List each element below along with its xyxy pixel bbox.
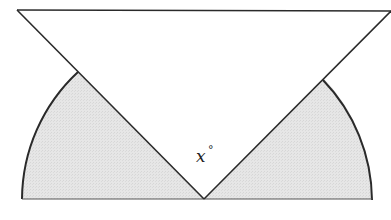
triangle-top-edge — [17, 10, 391, 11]
angle-label-degree-symbol: ° — [208, 143, 214, 156]
geometry-figure: x ° — [0, 0, 391, 220]
angle-label-variable: x — [196, 146, 206, 166]
